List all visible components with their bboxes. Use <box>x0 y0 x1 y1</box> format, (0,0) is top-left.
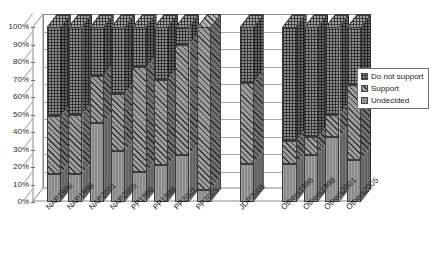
legend-item-support[interactable]: Support <box>361 84 426 93</box>
legend-swatch-icon <box>361 85 368 92</box>
legend-swatch-icon <box>361 97 368 104</box>
chart-container: 100%90%80%70%60%50%40%30%20%10%0% NAP199… <box>0 0 435 254</box>
legend-item-do-not-support[interactable]: Do not support <box>361 72 426 81</box>
legend-label: Do not support <box>371 72 423 81</box>
legend-swatch-icon <box>361 73 368 80</box>
x-axis-label-pp1998: PP1998 <box>152 186 178 212</box>
chart-legend: Do not supportSupportUndecided <box>357 68 429 109</box>
x-axis-labels: NAP1996NAP1998NAP2001NAP2005PP1996PP1998… <box>0 0 435 254</box>
legend-label: Support <box>371 84 399 93</box>
legend-item-undecided[interactable]: Undecided <box>361 96 426 105</box>
x-axis-label-jdp2005: JDP2005 <box>238 183 267 212</box>
legend-label: Undecided <box>371 96 409 105</box>
x-axis-label-pp2001: PP2001 <box>173 186 199 212</box>
x-axis-label-pp2005: PP2005 <box>195 186 221 212</box>
